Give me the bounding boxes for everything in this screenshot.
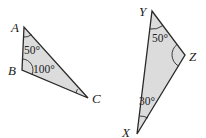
angle-label-b: 100° [33,63,55,75]
angle-label-a: 50° [24,44,41,56]
vertex-label-z: Z [189,49,197,64]
triangle-abc-shape [22,27,88,98]
triangle-abc: A B C 50° 100° [8,20,101,106]
geometry-diagram: A B C 50° 100° Y Z X 50° 30° [0,0,206,138]
triangle-xyz-shape [137,11,185,134]
angle-label-y: 50° [152,32,169,44]
angle-label-x: 30° [139,95,156,107]
vertex-label-b: B [8,63,16,78]
vertex-label-a: A [10,20,19,35]
vertex-label-x: X [121,125,131,138]
triangle-xyz: Y Z X 50° 30° [121,4,197,138]
vertex-label-c: C [92,91,101,106]
vertex-label-y: Y [139,4,148,19]
